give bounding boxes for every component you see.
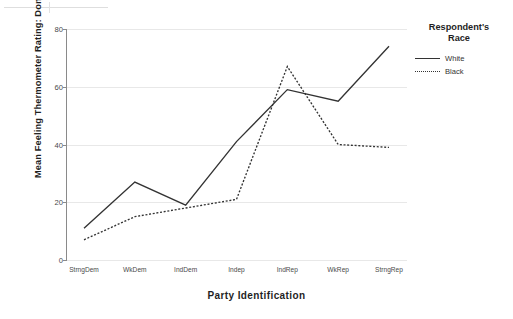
gridline-0 (67, 260, 407, 261)
chart-figure: Mean Feeling Thermometer Rating: Donald … (0, 0, 513, 319)
y-tick-mark-0 (63, 260, 66, 261)
legend-label-white: White (445, 54, 464, 63)
legend-items: WhiteBlack (408, 53, 510, 77)
legend-title: Respondent's Race (408, 22, 510, 44)
x-tick-label-strngrep: StrngRep (359, 266, 419, 273)
scan-artifact-line (4, 7, 108, 8)
legend: Respondent's Race WhiteBlack (408, 22, 510, 79)
legend-label-black: Black (445, 67, 464, 76)
legend-swatch-dotted-line-icon (415, 68, 440, 75)
y-tick-label-40: 40 (23, 141, 63, 150)
plot-area: 020406080 StrngDemWkDemIndDemIndepIndRep… (66, 29, 407, 260)
legend-swatch-solid-line-icon (415, 55, 440, 62)
scan-artifact-tick (49, 2, 50, 13)
legend-entry-black[interactable]: Black (415, 66, 510, 77)
x-axis-title: Party Identification (0, 290, 513, 301)
legend-title-line1: Respondent's (408, 22, 510, 33)
y-tick-label-0: 0 (23, 256, 63, 265)
legend-title-line2: Race (408, 33, 510, 44)
legend-entry-white[interactable]: White (415, 53, 510, 64)
y-tick-label-80: 80 (23, 25, 63, 34)
series-line-white (84, 46, 389, 228)
series-line-black (84, 67, 389, 240)
y-tick-label-20: 20 (23, 198, 63, 207)
series-layer (66, 29, 407, 260)
y-tick-label-60: 60 (23, 83, 63, 92)
